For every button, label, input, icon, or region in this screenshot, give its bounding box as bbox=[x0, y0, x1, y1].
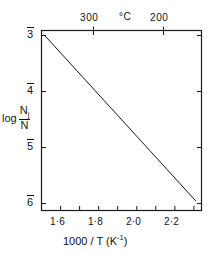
y-axis-numerator-symbol: N bbox=[20, 104, 28, 116]
plot-canvas bbox=[0, 0, 223, 256]
x-axis-tick-label-2-2: 2·2 bbox=[164, 216, 179, 227]
x-axis-title-tail: ) bbox=[124, 235, 128, 247]
y-tick-4-value: 4 bbox=[27, 84, 33, 96]
x-axis-tick-label-1-8: 1·8 bbox=[88, 216, 103, 227]
y-axis-title-fraction: Nj N bbox=[19, 105, 31, 132]
y-axis-numerator-subscript: j bbox=[28, 110, 30, 119]
y-tick-5-value: 5 bbox=[27, 140, 33, 152]
top-axis-tick-label-300: 300 bbox=[80, 12, 99, 23]
y-axis-title-numerator: Nj bbox=[19, 105, 31, 120]
x-axis-title-exponent: -1 bbox=[117, 233, 124, 242]
data-line-series-1 bbox=[45, 36, 195, 201]
y-tick-6-value: 6 bbox=[27, 196, 33, 208]
top-axis-tick-label-200: 200 bbox=[150, 12, 169, 23]
left-axis-ticks bbox=[42, 36, 47, 204]
y-tick-3-value: 3 bbox=[27, 28, 33, 40]
y-axis-title-denominator: N bbox=[19, 120, 31, 132]
chart-figure: 300 200 °C 3 4 5 6 log Nj N 1·6 1·8 2·0 … bbox=[0, 0, 223, 256]
x-axis-tick-label-2-0: 2·0 bbox=[126, 216, 141, 227]
y-axis-title: log Nj N bbox=[2, 105, 30, 132]
y-axis-tick-label-minus6: 6 bbox=[27, 196, 33, 208]
top-axis-unit-label-degc: °C bbox=[119, 11, 131, 22]
y-axis-tick-label-minus4: 4 bbox=[27, 84, 33, 96]
y-axis-tick-label-minus3: 3 bbox=[27, 28, 33, 40]
y-axis-title-prefix: log bbox=[2, 112, 17, 124]
y-axis-tick-label-minus5: 5 bbox=[27, 140, 33, 152]
x-axis-title: 1000 / T (K-1) bbox=[63, 233, 127, 247]
x-axis-tick-label-1-6: 1·6 bbox=[50, 216, 65, 227]
x-axis-title-main: 1000 / T (K bbox=[63, 235, 117, 247]
bottom-axis-ticks bbox=[42, 206, 194, 211]
right-axis-ticks bbox=[197, 36, 202, 204]
